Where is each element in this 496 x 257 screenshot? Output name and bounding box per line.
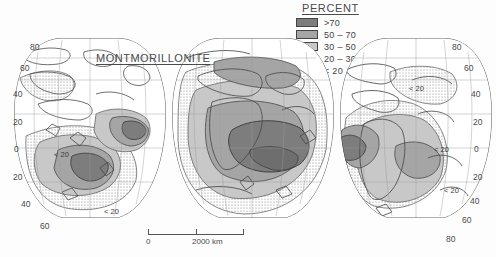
scale-tick — [196, 229, 197, 235]
scale-bar-labels: 0 2000 km — [148, 237, 244, 248]
world-map — [0, 18, 496, 236]
lat-label-right-40: 40 — [471, 89, 480, 99]
annotation-south-pacific: < 20 — [104, 207, 119, 216]
lat-label-right-80s: 80 — [446, 234, 455, 244]
lat-label-left-60s: 60 — [40, 221, 49, 231]
lat-label-right-20: 20 — [473, 117, 482, 127]
scale-tick — [243, 229, 244, 235]
annotation-north-atlantic: < 20 — [409, 84, 424, 93]
lat-label-right-40s: 40 — [470, 196, 479, 206]
lat-label-left-40s: 40 — [21, 199, 30, 209]
lat-label-right-60: 60 — [464, 63, 473, 73]
scale-tick — [148, 229, 149, 235]
lat-label-left-0: 0 — [14, 144, 19, 154]
scale-label-max: 2000 km — [192, 237, 223, 246]
page-title: MONTMORILLONITE — [96, 52, 210, 64]
lat-label-left-40: 40 — [13, 89, 22, 99]
lat-label-right-20s: 20 — [473, 172, 482, 182]
lat-label-right-80: 80 — [452, 42, 461, 52]
annotation-south-atlantic: < 20 — [434, 145, 449, 154]
map-figure: PERCENT >70 50 – 70 30 – 50 20 – 30 < 20 — [0, 0, 496, 257]
scale-bar-line — [148, 229, 244, 236]
lat-label-left-80: 80 — [30, 42, 39, 52]
lat-label-left-20s: 20 — [13, 172, 22, 182]
annotation-southern-ocean-left: < 20 — [54, 150, 69, 159]
lat-label-right-0: 0 — [474, 144, 479, 154]
legend-title: PERCENT — [296, 2, 416, 14]
annotation-south-america: < 20 — [444, 186, 459, 195]
lat-label-right-60s: 60 — [462, 215, 471, 225]
map-canvas — [0, 18, 496, 236]
scale-label-zero: 0 — [146, 237, 150, 246]
lat-label-left-20: 20 — [13, 117, 22, 127]
lat-label-left-60: 60 — [20, 63, 29, 73]
scale-bar: 0 2000 km — [148, 229, 244, 248]
